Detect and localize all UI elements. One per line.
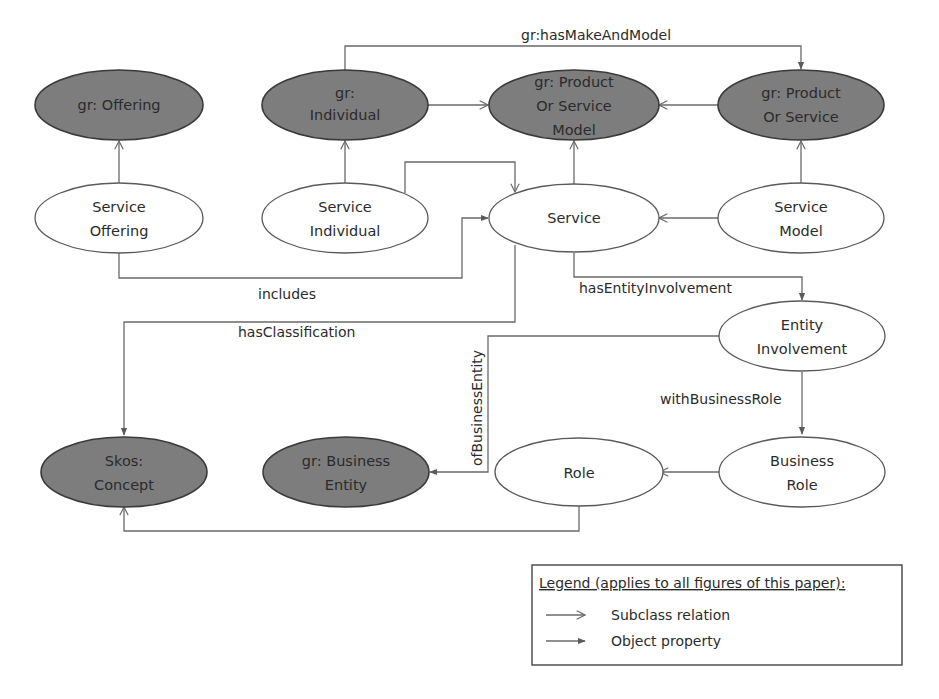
label-with-business-role: withBusinessRole [660, 391, 782, 407]
node-skos-concept: Skos: Concept [41, 437, 207, 507]
node-entity-involvement: Entity Involvement [719, 301, 885, 371]
node-service-individual: Service Individual [262, 183, 428, 253]
node-label: Business [770, 453, 834, 469]
edge-service-individual-to-service [405, 162, 515, 193]
node-service-offering: Service Offering [35, 183, 203, 253]
label-of-business-entity: ofBusinessEntity [469, 350, 485, 466]
node-label: Involvement [757, 341, 848, 357]
node-gr-individual: gr: Individual [262, 70, 428, 140]
edge-has-make-and-model [345, 46, 801, 70]
node-role: Role [495, 438, 663, 506]
node-label: gr: Business [302, 453, 390, 469]
node-label: gr: Product [534, 74, 614, 90]
node-label: Role [563, 465, 594, 481]
label-has-classification: hasClassification [238, 324, 355, 340]
label-has-make-and-model: gr:hasMakeAndModel [521, 27, 671, 43]
node-label: Service [547, 210, 601, 226]
node-label: Service [318, 199, 372, 215]
node-gr-offering: gr: Offering [35, 70, 203, 140]
node-label: Skos: [105, 453, 143, 469]
node-gr-product-or-service-model: gr: Product Or Service Model [489, 70, 659, 140]
node-label: Model [552, 122, 596, 138]
node-label: Individual [310, 107, 381, 123]
node-label: Entity [325, 477, 368, 493]
node-service-model: Service Model [718, 183, 884, 253]
node-service: Service [489, 184, 659, 252]
node-gr-business-entity: gr: Business Entity [263, 437, 429, 507]
node-label: Or Service [763, 109, 839, 125]
node-gr-product-or-service: gr: Product Or Service [718, 70, 884, 140]
legend: Legend (applies to all figures of this p… [532, 565, 902, 665]
legend-item-subclass: Subclass relation [611, 607, 730, 623]
legend-item-object-property: Object property [611, 633, 721, 649]
node-label: Entity [781, 317, 824, 333]
node-label: gr: Product [761, 85, 841, 101]
edge-has-classification [124, 245, 515, 435]
edge-role-to-skos-concept [124, 505, 579, 531]
ontology-diagram: gr:hasMakeAndModel includes hasClassific… [0, 0, 939, 699]
node-label: Service [92, 199, 146, 215]
nodes: gr: Offering gr: Individual gr: Product … [35, 70, 885, 507]
node-business-role: Business Role [719, 437, 885, 507]
node-label: Concept [94, 477, 154, 493]
node-label: Service [774, 199, 828, 215]
node-label: gr: [335, 85, 355, 101]
node-label: Individual [310, 223, 381, 239]
node-label: Role [786, 477, 817, 493]
legend-title: Legend (applies to all figures of this p… [539, 575, 845, 591]
node-label: gr: Offering [77, 97, 160, 113]
label-includes: includes [258, 286, 316, 302]
node-label: Or Service [536, 98, 612, 114]
label-has-entity-involvement: hasEntityInvolvement [579, 280, 732, 296]
node-label: Offering [90, 223, 149, 239]
node-label: Model [779, 223, 823, 239]
